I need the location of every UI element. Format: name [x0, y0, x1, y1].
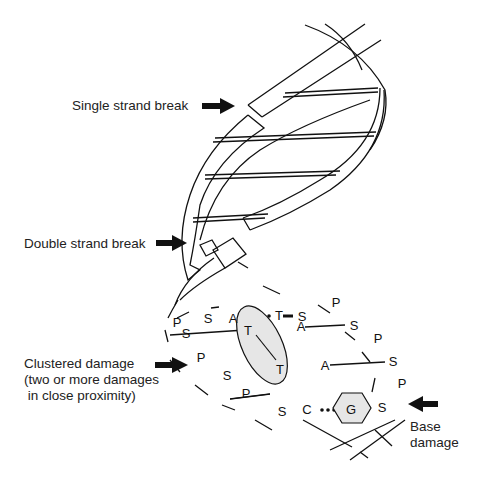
lower-strand: [175, 258, 225, 305]
broken-ribbon: [182, 115, 264, 280]
nt-s-r2: S: [389, 354, 398, 369]
nt-p-r1: P: [332, 295, 341, 310]
nt-p-r3: P: [398, 376, 407, 391]
back-strand: [305, 25, 386, 150]
nt-p-l2: P: [242, 386, 251, 401]
left-curve: [200, 100, 370, 240]
label-base-damage-2: damage: [410, 435, 459, 450]
label-clustered-damage-3: in close proximity): [24, 388, 136, 403]
label-double-strand-break: Double strand break: [24, 236, 146, 251]
nt-s-top: S: [204, 311, 213, 326]
nt-t-top: T: [275, 308, 283, 323]
arrow-ssb: [202, 98, 235, 114]
nt-a-mid: A: [297, 319, 306, 334]
label-base-damage-1: Base: [410, 419, 441, 434]
bp-a-s2: [330, 362, 385, 365]
label-clustered-damage-2: (two or more damages: [24, 372, 159, 387]
nt-s-r3: S: [378, 400, 387, 415]
nt-p-l1: P: [197, 350, 206, 365]
label-single-strand-break: Single strand break: [72, 98, 188, 113]
nt-s-l2: S: [223, 368, 232, 383]
nt-p-r2: P: [374, 331, 383, 346]
strand-tick: [238, 262, 280, 294]
rung-1: [283, 88, 378, 97]
nt-a-low: A: [321, 358, 330, 373]
nt-c: C: [302, 402, 311, 417]
nt-t-cluster1: T: [244, 323, 252, 338]
rung-3: [205, 171, 340, 179]
bp-a-s: [305, 325, 345, 327]
nt-s-r1: S: [350, 318, 359, 333]
back-strand-2: [325, 24, 362, 70]
label-clustered-damage-1: Clustered damage: [24, 356, 134, 371]
nt-s-l3: S: [278, 404, 287, 419]
nt-s-l1: S: [182, 326, 191, 341]
rung-4: [193, 214, 268, 222]
top-chain: [177, 307, 219, 318]
nt-a-top: A: [229, 311, 238, 326]
rung-2: [213, 132, 376, 142]
right-ribbon: [243, 88, 384, 230]
bottom-strand-3: [350, 420, 405, 460]
arrow-base: [408, 396, 438, 412]
arrow-cluster: [155, 357, 188, 373]
nt-t-cluster2: T: [276, 362, 284, 377]
nt-g: G: [346, 402, 356, 417]
nt-p-top: P: [173, 315, 182, 330]
